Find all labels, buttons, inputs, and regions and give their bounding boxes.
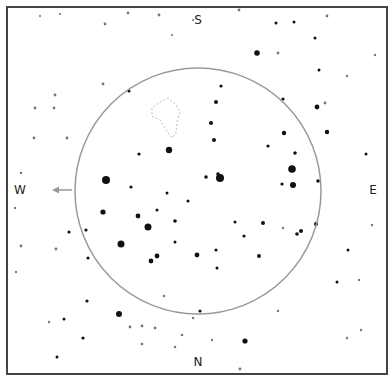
star-chart: S N W E <box>0 0 389 376</box>
star <box>154 327 157 330</box>
star <box>326 15 329 18</box>
star <box>48 321 50 323</box>
star <box>318 69 321 72</box>
star <box>238 9 241 12</box>
direction-label-north: N <box>194 355 203 369</box>
star <box>242 338 247 343</box>
star <box>127 12 130 15</box>
star <box>282 227 284 229</box>
star <box>149 259 154 264</box>
star <box>214 100 218 104</box>
star <box>275 22 278 25</box>
star <box>257 254 261 258</box>
star <box>14 207 16 209</box>
star <box>282 131 286 135</box>
star <box>266 144 269 147</box>
star <box>204 175 208 179</box>
star <box>158 14 161 17</box>
star <box>325 130 329 134</box>
star <box>358 279 360 281</box>
star <box>166 147 172 153</box>
star <box>314 37 317 40</box>
star <box>192 317 194 319</box>
star <box>290 182 296 188</box>
star <box>163 295 165 297</box>
star <box>209 121 213 125</box>
star <box>137 152 140 155</box>
star <box>288 165 296 173</box>
star <box>33 137 36 140</box>
star <box>155 254 160 259</box>
star <box>347 249 350 252</box>
star <box>102 176 110 184</box>
star <box>104 23 107 26</box>
star <box>195 253 200 258</box>
star <box>129 326 132 329</box>
star <box>346 337 348 339</box>
star <box>54 94 57 97</box>
star <box>67 230 70 233</box>
star <box>187 200 190 203</box>
star <box>173 219 177 223</box>
star <box>141 343 144 346</box>
constellation-outline <box>152 98 180 138</box>
star <box>280 182 283 185</box>
star <box>100 209 105 214</box>
star <box>216 172 220 176</box>
star <box>59 13 61 15</box>
star <box>174 346 177 349</box>
star <box>211 339 213 341</box>
star <box>374 54 376 56</box>
star <box>316 179 320 183</box>
star <box>136 214 141 219</box>
star <box>39 15 41 17</box>
star <box>34 107 37 110</box>
direction-label-east: E <box>369 183 377 197</box>
star <box>55 248 58 251</box>
star <box>365 153 368 156</box>
star <box>261 221 265 225</box>
star <box>216 267 219 270</box>
star <box>346 75 348 77</box>
star <box>212 138 216 142</box>
star <box>171 34 173 36</box>
direction-label-south: S <box>194 13 202 27</box>
star <box>254 50 260 56</box>
west-arrow-icon <box>52 187 72 194</box>
star <box>56 356 59 359</box>
star <box>86 256 89 259</box>
star <box>116 311 122 317</box>
star <box>141 325 144 328</box>
star <box>214 248 217 251</box>
star <box>293 21 296 24</box>
star <box>315 105 320 110</box>
star <box>84 228 87 231</box>
star <box>295 232 299 236</box>
star <box>277 310 279 312</box>
star <box>63 318 66 321</box>
star <box>85 299 88 302</box>
star <box>81 336 84 339</box>
star <box>324 102 327 105</box>
star <box>277 52 280 55</box>
star <box>15 271 17 273</box>
star <box>156 209 159 212</box>
star <box>219 84 222 87</box>
star <box>174 241 177 244</box>
star <box>198 309 201 312</box>
star <box>181 334 184 337</box>
star <box>371 224 373 226</box>
star <box>20 245 23 248</box>
star <box>129 185 132 188</box>
star <box>66 137 69 140</box>
star <box>20 172 22 174</box>
star <box>239 368 242 371</box>
direction-label-west: W <box>14 183 26 197</box>
star <box>299 229 303 233</box>
star <box>242 234 245 237</box>
star <box>145 224 152 231</box>
star <box>336 281 339 284</box>
star <box>118 241 125 248</box>
star <box>166 192 169 195</box>
star <box>360 329 362 331</box>
